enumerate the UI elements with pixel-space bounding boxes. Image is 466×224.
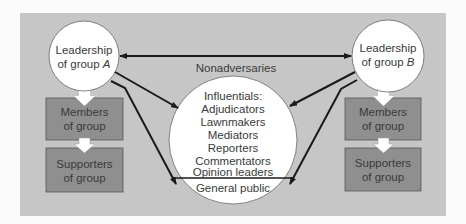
diagram-canvas: Members of group Supporters of group Mem… [0, 0, 466, 224]
left-members-line2: of group [63, 120, 105, 132]
left-supporters-box: Supporters of group [46, 148, 123, 192]
influential-item: Lawnmakers [200, 116, 265, 128]
influential-item: Opinion leaders [193, 166, 274, 178]
nonadversaries-label: Nonadversaries [196, 62, 277, 74]
left-members-line1: Members [61, 106, 109, 118]
right-leadership-node: Leadership of group B [352, 20, 424, 92]
right-leader-line1: Leadership [360, 42, 417, 54]
left-supporters-line2: of group [63, 172, 105, 184]
left-leadership-node: Leadership of group A [49, 21, 119, 91]
right-leader-line2: of group B [361, 56, 414, 68]
right-leader-prefix: of group [361, 56, 406, 68]
influential-item: Reporters [208, 142, 259, 154]
left-leader-line1: Leadership [56, 44, 113, 56]
influentials-node: Influentials: Adjudicators Lawnmakers Me… [169, 76, 297, 204]
right-leader-group: B [407, 56, 415, 68]
left-leader-prefix: of group [57, 58, 102, 70]
influential-item: Mediators [208, 129, 259, 141]
right-supporters-box: Supporters of group [345, 148, 421, 191]
influential-item: Adjudicators [201, 103, 265, 115]
left-supporters-line1: Supporters [56, 158, 113, 170]
influentials-heading: Influentials: [204, 90, 262, 102]
right-members-line1: Members [359, 106, 407, 118]
right-members-line2: of group [362, 120, 404, 132]
right-supporters-line1: Supporters [355, 157, 412, 169]
general-public-label: General public [196, 182, 270, 194]
left-leader-group: A [102, 58, 111, 70]
right-supporters-line2: of group [362, 171, 404, 183]
left-leader-line2: of group A [57, 58, 110, 70]
